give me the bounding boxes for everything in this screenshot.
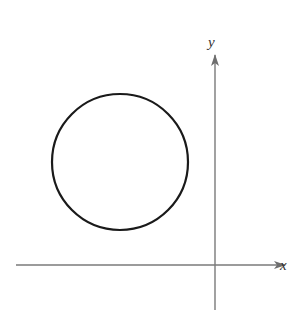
circle: [52, 94, 188, 230]
coordinate-diagram: x y: [0, 0, 295, 336]
x-axis-label: x: [279, 257, 287, 273]
y-axis-label: y: [206, 34, 215, 50]
